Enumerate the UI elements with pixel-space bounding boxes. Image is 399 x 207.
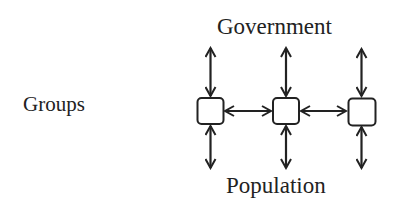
group-node-2 [273, 98, 299, 124]
group-nodes [198, 98, 376, 126]
government-group-arrows [211, 48, 362, 96]
group-node-3 [349, 99, 376, 126]
diagram-canvas: Government Groups Population [0, 0, 399, 207]
network-diagram [0, 0, 399, 207]
group-population-arrows [211, 126, 362, 168]
group-node-1 [198, 98, 224, 124]
